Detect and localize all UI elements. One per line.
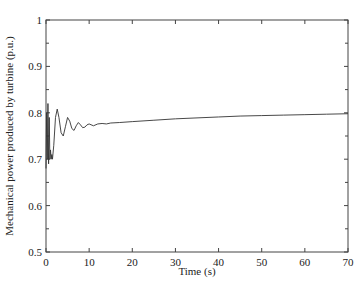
y-tick-label: 0.5 [28,246,42,258]
x-tick-label: 50 [256,256,268,268]
x-tick-label: 70 [343,256,355,268]
y-tick-label: 1 [37,14,43,26]
y-tick-label: 0.8 [28,107,42,119]
plot-area [46,20,348,252]
x-tick-label: 60 [299,256,311,268]
line-chart: 0.50.60.70.80.91 010203040506070 Time (s… [0,0,363,297]
x-axis-title: Time (s) [178,265,216,278]
x-tick-label: 0 [43,256,49,268]
x-tick-label: 10 [84,256,96,268]
y-tick-label: 0.6 [28,200,42,212]
y-tick-label: 0.9 [28,60,42,72]
x-tick-label: 20 [127,256,139,268]
y-tick-label: 0.7 [28,153,42,165]
y-axis-title: Mechanical power produced by turbine (p.… [3,36,16,236]
